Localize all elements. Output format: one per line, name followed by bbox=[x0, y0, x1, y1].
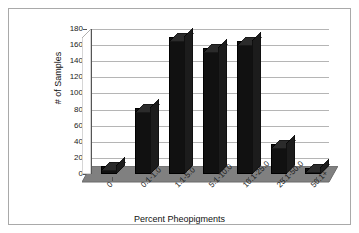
y-tick-label: 40 bbox=[49, 138, 83, 146]
bar-side-face bbox=[218, 39, 227, 174]
bar-front-face bbox=[237, 41, 253, 174]
bar-side-face bbox=[116, 157, 125, 174]
bar-top-face bbox=[135, 99, 151, 108]
left-depth-shape bbox=[82, 29, 91, 174]
y-axis-title: # of Samples bbox=[53, 23, 63, 133]
chart-frame: 020406080100120140160180 # of Samples 0 bbox=[8, 8, 351, 225]
bar-series bbox=[91, 29, 329, 174]
chart-page: 020406080100120140160180 # of Samples 0 bbox=[0, 0, 359, 233]
x-tick-label: 0 bbox=[105, 180, 115, 190]
bar-top-face bbox=[169, 28, 185, 37]
bar-top-face bbox=[101, 157, 117, 166]
bar-top-face bbox=[203, 39, 219, 48]
x-axis-title: Percent Pheopigments bbox=[9, 214, 350, 224]
left-depth-wall bbox=[82, 29, 91, 174]
x-tick-mark bbox=[112, 177, 113, 181]
bar-top-face bbox=[237, 32, 253, 41]
bar-top-face bbox=[305, 159, 321, 168]
bar-side-face bbox=[150, 99, 159, 174]
bar-side-face bbox=[252, 32, 261, 174]
bar-10.1-25.0 bbox=[237, 41, 253, 174]
x-tick-mark bbox=[146, 177, 147, 181]
bar-front-face bbox=[169, 37, 185, 174]
bar-0.1-1.0 bbox=[135, 108, 151, 174]
x-tick-mark bbox=[180, 177, 181, 181]
x-tick-mark bbox=[248, 177, 249, 181]
bar-top-face bbox=[271, 135, 287, 144]
x-axis-labels: 00.1-1.01.1-5.05.1-10.010.1-25.025.1-50.… bbox=[79, 181, 354, 215]
bar-0 bbox=[101, 166, 117, 174]
y-axis-labels: 020406080100120140160180 bbox=[45, 29, 83, 174]
bar-front-face bbox=[203, 48, 219, 174]
x-tick-mark bbox=[316, 177, 317, 181]
bar-front-face bbox=[135, 108, 151, 174]
bar-1.1-5.0 bbox=[169, 37, 185, 174]
bar-25.1-50.0 bbox=[271, 144, 287, 174]
x-tick-mark bbox=[282, 177, 283, 181]
x-tick-mark bbox=[214, 177, 215, 181]
y-tick-label: 20 bbox=[49, 154, 83, 162]
y-tick-label: 0 bbox=[49, 170, 83, 178]
bar-side-face bbox=[184, 28, 193, 174]
bar-5.1-10.0 bbox=[203, 48, 219, 174]
